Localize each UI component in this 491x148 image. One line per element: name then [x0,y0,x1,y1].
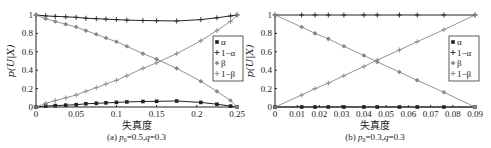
legend-item: α [221,37,226,47]
y-tick-label: 0.2 [261,84,272,94]
y-tick-label: 1 [29,10,34,20]
y-tick-label: 0.6 [22,47,34,57]
x-axis-label: 失真度 [360,119,390,131]
x-tick-label: 0.05 [68,109,84,119]
legend-item: 1−α [221,48,236,58]
x-tick-label: 0 [273,109,278,119]
chart-panel-b: 00.20.40.60.8100.010.020.030.040.050.060… [244,10,483,143]
x-tick-label: 0 [34,109,39,119]
x-tick-label: 0.01 [289,109,305,119]
chart-caption: (b) p0=0.3,q=0.3 [345,132,405,143]
x-tick-label: 0.08 [445,109,461,119]
x-tick-label: 0.07 [423,109,439,119]
chart-caption: (a) p0=0.5,q=0.3 [107,132,167,143]
y-tick-label: 0.2 [22,84,33,94]
legend-item: 1−β [457,69,472,79]
y-tick-label: 0.6 [261,47,273,57]
x-tick-label: 0.15 [149,109,165,119]
y-tick-label: 0.8 [22,28,34,38]
y-tick-label: 0.4 [261,65,273,75]
x-tick-label: 0.25 [229,109,245,119]
series-one-minus-beta [34,13,240,110]
y-tick-label: 1 [268,10,273,20]
x-tick-label: 0.1 [111,109,122,119]
legend: α1−αβ1−β [213,36,243,81]
x-tick-label: 0.02 [312,109,328,119]
legend-item: β [221,58,226,68]
x-tick-label: 0.06 [400,109,416,119]
x-tick-label: 0.09 [467,109,483,119]
series-beta [34,13,239,109]
y-tick-label: 0 [29,102,34,112]
series-one-minus-alpha [34,13,240,24]
y-tick-label: 0 [268,102,273,112]
chart-panel-a: 00.20.40.60.8100.050.10.150.20.25p(U|X)失… [5,10,245,143]
legend-item: 1−α [457,48,472,58]
x-tick-label: 0.2 [191,109,202,119]
y-axis-label: p(U|X) [5,44,17,77]
legend-item: β [457,58,462,68]
y-axis-label: p(U|X) [244,44,256,77]
x-tick-label: 0.05 [378,109,394,119]
legend-item: α [457,37,462,47]
legend-item: 1−β [221,69,236,79]
y-tick-label: 0.4 [22,65,34,75]
x-axis-label: 失真度 [122,119,152,131]
legend: α1−αβ1−β [449,36,479,81]
x-tick-label: 0.04 [356,109,372,119]
chart-figure: 00.20.40.60.8100.050.10.150.20.25p(U|X)失… [0,0,491,148]
x-tick-label: 0.03 [334,109,350,119]
series-one-minus-alpha [273,13,478,18]
y-tick-label: 0.8 [261,28,273,38]
